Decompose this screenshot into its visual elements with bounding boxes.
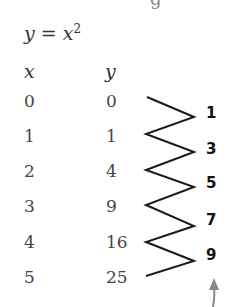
arrow-icon bbox=[209, 278, 219, 307]
difference-label: 1 bbox=[206, 104, 216, 122]
difference-label: 5 bbox=[206, 174, 216, 192]
difference-label: 7 bbox=[206, 211, 216, 229]
zigzag-connector bbox=[0, 0, 232, 307]
difference-label: 9 bbox=[206, 246, 216, 264]
difference-label: 3 bbox=[206, 140, 216, 158]
